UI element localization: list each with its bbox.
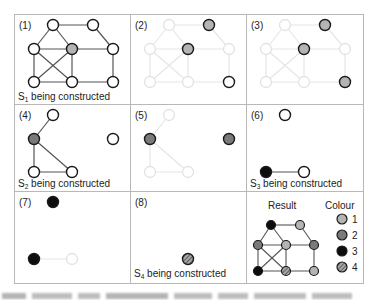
panel-label: (3) — [251, 20, 263, 31]
blurred-caption-strip — [0, 288, 376, 300]
legend-item-3: 3 — [337, 246, 358, 257]
colour-3-swatch-icon — [337, 246, 347, 256]
node-b3 — [340, 77, 351, 88]
node-b1 — [29, 167, 40, 178]
graph-nodes — [29, 110, 119, 178]
set-caption: S4 being constructed — [134, 268, 226, 280]
panel-2: (2) — [135, 20, 235, 88]
graph-nodes — [183, 254, 194, 265]
panel-7: (7) — [19, 197, 78, 265]
node-b1 — [29, 77, 40, 88]
node-m3 — [310, 241, 319, 250]
active-nodes — [29, 197, 59, 265]
set-caption: S2 being constructed — [18, 178, 110, 190]
node-t1 — [280, 110, 291, 121]
node-m2 — [67, 44, 78, 55]
node-b2 — [67, 77, 78, 88]
panel-result: Result — [254, 200, 359, 276]
node-t1 — [48, 197, 59, 208]
active-nodes — [145, 134, 235, 145]
node-t2 — [204, 20, 215, 31]
faded-edges — [150, 115, 188, 172]
node-b2 — [282, 267, 291, 276]
svg-text:4: 4 — [352, 262, 358, 273]
node-t1 — [48, 110, 59, 121]
panel-label: (1) — [19, 20, 31, 31]
node-b2 — [67, 167, 78, 178]
node-m3 — [224, 134, 235, 145]
result-graph — [254, 221, 319, 276]
node-m2 — [183, 44, 194, 55]
node-t2 — [296, 221, 305, 230]
node-b3 — [108, 77, 119, 88]
panel-label: (8) — [135, 197, 147, 208]
panel-label: (5) — [135, 110, 147, 121]
panel-4: (4) S2 being constructed — [18, 110, 119, 191]
panel-label: (2) — [135, 20, 147, 31]
legend-item-2: 2 — [337, 230, 358, 241]
panel-label: (6) — [251, 110, 263, 121]
node-b3 — [224, 77, 235, 88]
node-m1 — [254, 241, 263, 250]
node-m1 — [145, 134, 156, 145]
panel-5: (5) — [135, 110, 235, 178]
colour-1-swatch-icon — [337, 214, 347, 224]
panel-8: (8) S4 being constructed — [134, 197, 226, 280]
colour-4-swatch-icon — [337, 262, 347, 272]
legend-item-1: 1 — [337, 214, 358, 225]
node-m2 — [282, 241, 291, 250]
colour-2-swatch-icon — [337, 230, 347, 240]
node-m3 — [108, 134, 119, 145]
node-b2 — [183, 254, 194, 265]
graph-edges — [34, 115, 72, 172]
faded-nodes — [67, 254, 78, 265]
node-m1 — [29, 134, 40, 145]
node-b1 — [254, 267, 263, 276]
node-t2 — [88, 20, 99, 31]
colour-legend: Colour 1 2 3 4 — [325, 200, 358, 273]
node-b1 — [29, 254, 40, 265]
legend-item-4: 4 — [337, 262, 358, 273]
graph-nodes — [261, 110, 310, 178]
node-m1 — [29, 44, 40, 55]
result-title: Result — [268, 200, 297, 211]
graph-nodes — [254, 221, 319, 276]
node-b2 — [299, 167, 310, 178]
panel-label: (7) — [19, 197, 31, 208]
graph-colouring-figure: (1) S1 being constructed (2) — [0, 0, 376, 300]
node-t2 — [320, 20, 331, 31]
node-b1 — [261, 167, 272, 178]
node-b3 — [310, 267, 319, 276]
legend-title: Colour — [325, 200, 355, 211]
panel-label: (4) — [19, 110, 31, 121]
panel-1: (1) S1 being constructed — [18, 20, 119, 104]
node-t1 — [267, 221, 276, 230]
node-m2 — [299, 44, 310, 55]
node-m3 — [108, 44, 119, 55]
set-caption: S1 being constructed — [18, 91, 110, 103]
svg-text:3: 3 — [352, 246, 358, 257]
svg-text:1: 1 — [352, 214, 358, 225]
panel-3: (3) — [251, 20, 351, 88]
set-caption: S3 being constructed — [250, 178, 342, 190]
node-t1 — [48, 20, 59, 31]
panel-6: (6) S3 being constructed — [250, 110, 342, 191]
graph-nodes — [29, 20, 119, 88]
svg-text:2: 2 — [352, 230, 358, 241]
